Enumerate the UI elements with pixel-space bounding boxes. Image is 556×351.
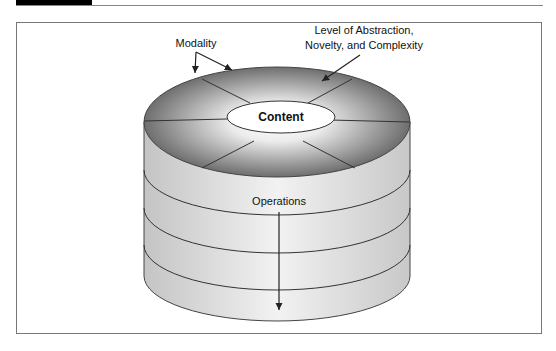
content-label: Content [258, 110, 303, 124]
operations-label: Operations [252, 195, 306, 207]
cylinder-diagram: Content Modality Level of Abstraction, N… [0, 0, 556, 351]
modality-label: Modality [176, 37, 217, 49]
modality-arrow-right [196, 52, 232, 70]
level-label-line2: Novelty, and Complexity [305, 39, 423, 51]
modality-arrow-left [195, 52, 196, 73]
level-label-line1: Level of Abstraction, [314, 24, 413, 36]
